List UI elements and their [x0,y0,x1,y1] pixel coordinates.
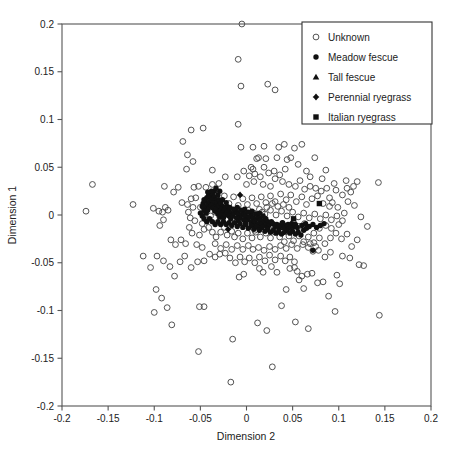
x-tick-label: -0.15 [97,413,120,424]
data-point [260,213,265,218]
x-tick-label: 0 [244,413,250,424]
data-point [201,197,206,202]
y-tick-label: -0.05 [31,257,54,268]
x-tick-label: 0.05 [283,413,303,424]
y-tick-label: -0.1 [37,305,55,316]
data-point [317,201,322,206]
legend-item-label: Unknown [328,32,370,43]
y-tick-label: 0.15 [35,66,55,77]
y-tick-label: 0 [48,210,54,221]
filled-circle-icon [313,54,318,59]
x-axis-title: Dimension 2 [217,430,276,442]
y-tick-label: 0.05 [35,162,55,173]
legend: UnknownMeadow fescueTall fescuePerennial… [302,22,432,124]
y-axis-title: Dimension 1 [6,186,18,245]
y-tick-label: 0.2 [40,19,54,30]
legend-item-label: Perennial ryegrass [328,92,411,103]
legend-item[interactable]: Perennial ryegrass [313,92,412,103]
y-tick-label: 0.1 [40,114,54,125]
scatter-plot-figure: -0.2-0.15-0.1-0.0500.050.10.150.2 0.20.1… [0,0,457,455]
legend-item-label: Italian ryegrass [328,112,396,123]
y-tick-label: -0.15 [31,353,54,364]
x-tick-label: -0.05 [189,413,212,424]
data-point [310,248,315,253]
data-point [217,188,222,193]
legend-item-label: Meadow fescue [328,52,398,63]
x-tick-label: 0.1 [332,413,346,424]
x-tick-label: -0.1 [146,413,164,424]
legend-item-label: Tall fescue [328,72,376,83]
data-point [205,189,210,194]
data-point [298,232,303,237]
data-point [200,204,205,209]
data-point [295,225,300,230]
x-tick-label: 0.2 [424,413,438,424]
y-tick-label: -0.2 [37,401,55,412]
data-point [224,200,229,205]
x-tick-label: -0.2 [53,413,71,424]
data-point [291,216,296,221]
x-tick-label: 0.15 [375,413,395,424]
filled-square-icon [313,114,318,119]
data-point [321,221,326,226]
plot-canvas: -0.2-0.15-0.1-0.0500.050.10.150.2 0.20.1… [0,0,457,455]
